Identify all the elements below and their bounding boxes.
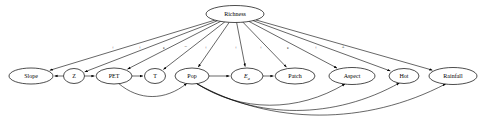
node-label-patch: Patch: [288, 73, 301, 79]
node-ea[interactable]: Ea: [231, 68, 263, 84]
node-label-hot: Hot: [400, 73, 409, 79]
nodes-group: SlopeZPETTPopEaPatchAspectHotRainfall: [9, 68, 477, 85]
edge-labels-group: ++e−+++e+±: [112, 44, 345, 50]
edge-richness-to-slope: [50, 20, 215, 70]
edge-sign-richness-to-ea: +: [235, 45, 238, 50]
root-node-group: Richness: [206, 6, 264, 23]
edge-sign-richness-to-aspect: e: [287, 45, 290, 50]
node-pop[interactable]: Pop: [175, 68, 209, 84]
edge-sign-richness-to-patch: +: [260, 45, 263, 50]
edge-sign-richness-to-slope: +: [112, 45, 115, 50]
node-label-richness: Richness: [224, 11, 246, 17]
node-label-t: T: [153, 73, 157, 79]
edge-richness-to-ea: [237, 22, 246, 66]
node-aspect[interactable]: Aspect: [329, 68, 375, 85]
root-edges-group: [50, 20, 433, 72]
node-label-rainfall: Rainfall: [443, 73, 463, 79]
curved-edge-pet-to-pop: [119, 83, 187, 96]
node-z[interactable]: Z: [64, 69, 85, 84]
node-label-z: Z: [72, 73, 76, 79]
node-hot[interactable]: Hot: [389, 69, 419, 84]
node-richness[interactable]: Richness: [206, 6, 264, 23]
node-pet[interactable]: PET: [96, 68, 132, 84]
node-slope[interactable]: Slope: [9, 68, 53, 84]
curved-edges-group: [119, 83, 446, 115]
curved-edge-pop-to-hot: [196, 83, 399, 111]
node-patch[interactable]: Patch: [275, 68, 315, 84]
node-t[interactable]: T: [145, 69, 166, 84]
edge-sign-richness-to-t: −: [185, 44, 188, 49]
edge-sign-richness-to-pet: e: [163, 45, 166, 50]
edge-richness-to-patch: [243, 22, 287, 67]
edge-sign-richness-to-z: +: [139, 45, 142, 50]
edge-sign-richness-to-pop: +: [205, 45, 208, 50]
edge-richness-to-z: [85, 21, 218, 72]
edge-sign-richness-to-rainfall: ±: [342, 44, 345, 49]
edge-richness-to-pop: [198, 22, 229, 67]
node-label-pet: PET: [109, 73, 120, 79]
diagram-canvas: SlopeZPETTPopEaPatchAspectHotRainfall Ri…: [0, 0, 482, 124]
curved-edge-pop-to-rainfall: [196, 83, 446, 115]
edge-sign-richness-to-hot: +: [315, 45, 318, 50]
path-diagram: SlopeZPETTPopEaPatchAspectHotRainfall Ri…: [0, 0, 482, 124]
node-rainfall[interactable]: Rainfall: [429, 68, 477, 85]
node-label-pop: Pop: [187, 73, 196, 79]
node-label-aspect: Aspect: [344, 73, 361, 79]
edge-richness-to-hot: [253, 21, 390, 71]
node-label-slope: Slope: [24, 73, 38, 79]
